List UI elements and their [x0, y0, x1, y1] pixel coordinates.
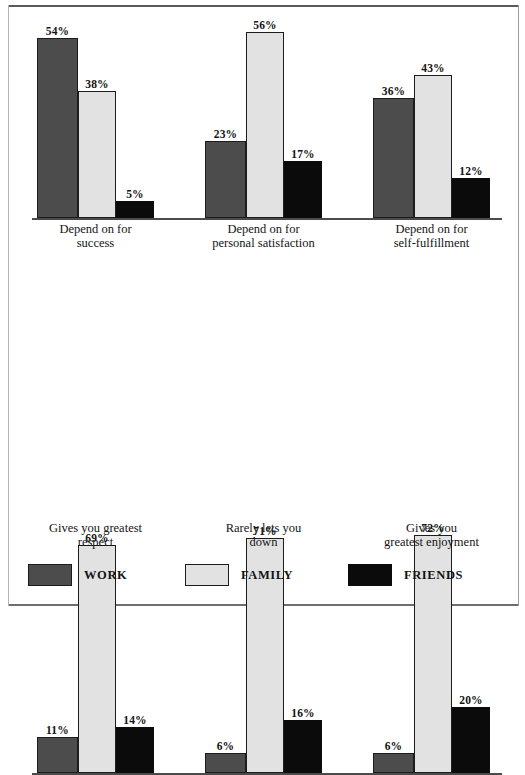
legend-label: FRIENDS — [404, 568, 463, 583]
bar-value-label: 6% — [385, 740, 403, 752]
legend-label: FAMILY — [241, 568, 293, 583]
bar-family-g1: 38% — [78, 91, 116, 218]
bar-work-g1: 11% — [37, 737, 78, 773]
category-label-g3: Depend on for self-fulfillment — [347, 222, 517, 250]
legend-swatch-family — [185, 564, 229, 586]
bar-work-g2: 6% — [205, 753, 246, 773]
bar-work-g3: 6% — [373, 753, 414, 773]
legend-label: WORK — [84, 568, 127, 583]
x-axis-line-top — [32, 218, 502, 220]
chart-legend: WORKFAMILYFRIENDS — [0, 562, 525, 592]
legend-item-friends[interactable]: FRIENDS — [348, 562, 463, 588]
bar-family-g3: 43% — [414, 75, 452, 218]
bar-value-label: 54% — [46, 25, 70, 37]
chart-panel-top: 54%38%5%Depend on for success23%56%17%De… — [0, 0, 525, 250]
legend-item-family[interactable]: FAMILY — [185, 562, 293, 588]
bar-value-label: 17% — [291, 148, 315, 160]
bar-family-g2: 56% — [246, 32, 284, 218]
bar-friends-g2: 16% — [284, 720, 322, 773]
bar-value-label: 5% — [126, 188, 144, 200]
bar-work-g3: 36% — [373, 98, 414, 218]
legend-item-work[interactable]: WORK — [28, 562, 127, 588]
bar-friends-g2: 17% — [284, 161, 322, 218]
bar-value-label: 16% — [291, 707, 315, 719]
bar-value-label: 11% — [46, 724, 69, 736]
chart-panel-bottom: 11%69%14%Gives you greatest respect6%71%… — [0, 255, 525, 545]
bar-value-label: 43% — [421, 62, 445, 74]
bar-value-label: 38% — [85, 78, 109, 90]
bar-friends-g3: 12% — [452, 178, 490, 218]
bar-value-label: 6% — [217, 740, 235, 752]
category-label-g3: Gives you greatest enjoyment — [347, 521, 517, 549]
legend-swatch-friends — [348, 564, 392, 586]
bar-value-label: 14% — [123, 714, 147, 726]
plot-area-bottom — [32, 275, 500, 518]
category-label-g2: Depend on for personal satisfaction — [179, 222, 349, 250]
bar-work-g2: 23% — [205, 141, 246, 218]
category-label-g1: Depend on for success — [11, 222, 181, 250]
bar-value-label: 36% — [382, 85, 406, 97]
bar-friends-g1: 5% — [116, 201, 154, 218]
bar-friends-g1: 14% — [116, 727, 154, 773]
bar-value-label: 23% — [214, 128, 238, 140]
bar-work-g1: 54% — [37, 38, 78, 218]
category-label-g1: Gives you greatest respect — [11, 521, 181, 549]
bar-value-label: 20% — [459, 694, 483, 706]
bar-friends-g3: 20% — [452, 707, 490, 773]
bar-value-label: 56% — [253, 19, 277, 31]
bar-value-label: 12% — [459, 165, 483, 177]
category-label-g2: Rarely lets you down — [179, 521, 349, 549]
legend-swatch-work — [28, 564, 72, 586]
